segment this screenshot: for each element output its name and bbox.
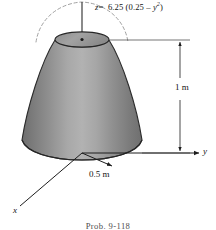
x-axis-label: x bbox=[13, 206, 17, 215]
x-axis bbox=[20, 153, 82, 206]
top-face-ellipse bbox=[55, 32, 109, 47]
axis-system bbox=[20, 153, 199, 206]
radius-dimension-label: 0.5 m bbox=[89, 170, 110, 179]
equation-suffix: ) bbox=[160, 2, 163, 12]
equation-rhs-prefix: 6.25 (0.25 – bbox=[108, 2, 153, 12]
figure-caption: Prob. 9-118 bbox=[0, 221, 216, 230]
y-axis-label: y bbox=[203, 147, 207, 156]
problem-figure: z= 6.25 (0.25 – y2) 1 m 0.5 m y x Prob. … bbox=[0, 0, 216, 230]
top-center-point bbox=[80, 38, 83, 41]
equation-equals: = bbox=[98, 2, 103, 12]
figure-drawing bbox=[0, 0, 216, 230]
surface-equation-label: z= 6.25 (0.25 – y2) bbox=[95, 1, 163, 11]
solid-of-revolution bbox=[22, 40, 142, 160]
height-dimension-label: 1 m bbox=[175, 83, 189, 92]
